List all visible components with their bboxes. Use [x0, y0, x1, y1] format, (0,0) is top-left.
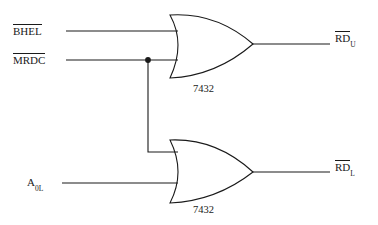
output-label-rdu: RDU [335, 31, 356, 47]
output-label-rdl: RDL [335, 160, 355, 176]
output-label-rdu-text: RD [335, 31, 350, 44]
gate-top [170, 15, 253, 78]
input-label-mrdc: MRDC [13, 53, 45, 66]
input-label-a0l: A0L [27, 177, 43, 191]
part-number-gate-bottom: 7432 [193, 205, 214, 216]
junction-dot-mrdc [145, 57, 151, 63]
input-label-a0l-text: A [27, 176, 35, 188]
input-label-bhel-text: BHEL [13, 24, 42, 37]
gate-bottom [170, 140, 253, 203]
circuit-diagram [0, 0, 378, 225]
wire-mrdc-branch-to-gate-bottom [148, 60, 178, 152]
part-number-gate-top: 7432 [193, 84, 214, 95]
or-gate-body-bottom [170, 140, 253, 203]
input-label-a0l-subscript: 0L [35, 184, 43, 193]
output-label-rdl-subscript: L [350, 169, 355, 178]
output-label-rdu-subscript: U [350, 40, 355, 49]
input-label-mrdc-text: MRDC [13, 53, 45, 66]
input-label-bhel: BHEL [13, 24, 42, 37]
or-gate-body-top [170, 15, 253, 78]
output-label-rdl-text: RD [335, 160, 350, 173]
